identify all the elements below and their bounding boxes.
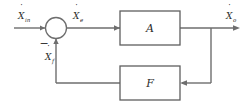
feedback-base-symbol: X xyxy=(44,52,52,62)
summing-junction-circle xyxy=(46,18,67,39)
wire-error xyxy=(67,25,121,30)
wire-feedback-tap xyxy=(180,28,211,86)
input-base-symbol: X xyxy=(17,11,25,21)
arrowhead-into-sum xyxy=(40,26,45,31)
block-diagram-canvas: A F ˙ X in ˙ X e ˙ X o ˙ X f xyxy=(0,0,251,111)
signal-label-output: ˙ X o xyxy=(225,3,237,23)
output-subscript: o xyxy=(233,17,237,23)
arrowhead-into-sum-feedback xyxy=(53,39,58,45)
error-base-symbol: X xyxy=(72,11,80,21)
error-subscript: e xyxy=(80,17,84,23)
input-subscript: in xyxy=(25,17,31,23)
arrowhead-into-block-a xyxy=(114,25,120,30)
signal-label-input: ˙ X in xyxy=(17,3,31,23)
arrowhead-into-block-f xyxy=(180,80,187,85)
feedback-subscript: f xyxy=(51,58,55,65)
diagram-svg: A F ˙ X in ˙ X e ˙ X o ˙ X f xyxy=(0,0,251,111)
wire-output xyxy=(180,25,240,31)
signal-label-error: ˙ X e xyxy=(72,3,84,23)
block-a[interactable]: A xyxy=(120,11,180,45)
arrowhead-output xyxy=(233,25,240,31)
wire-input xyxy=(14,26,45,31)
block-f-label: F xyxy=(145,77,154,90)
wire-feedback-return xyxy=(53,39,120,84)
output-base-symbol: X xyxy=(225,11,233,21)
block-a-label: A xyxy=(145,22,154,35)
summing-junction-minus-sign: − xyxy=(39,37,48,50)
block-f[interactable]: F xyxy=(120,66,180,100)
